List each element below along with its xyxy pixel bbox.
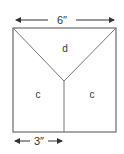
bottom-dimension: 3″ <box>15 135 62 147</box>
square-diagram: 6″ d c c 3″ <box>0 0 124 154</box>
top-dimension: 6″ <box>16 14 114 26</box>
right-diagonal <box>64 28 116 81</box>
region-bottom-left-label: c <box>36 89 41 100</box>
region-top-label: d <box>62 43 68 54</box>
region-bottom-right-label: c <box>90 89 95 100</box>
bottom-dimension-label: 3″ <box>34 135 44 147</box>
top-dimension-label: 6″ <box>57 14 67 26</box>
left-diagonal <box>13 28 64 81</box>
